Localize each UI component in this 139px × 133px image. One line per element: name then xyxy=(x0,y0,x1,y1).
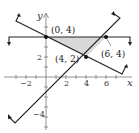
vertex-0-4 xyxy=(44,35,48,39)
x-tick-2: 2 xyxy=(64,79,69,88)
x-tick-6: 6 xyxy=(104,79,109,88)
vertex-label-4-2: (4, 2) xyxy=(55,54,79,64)
vertex-label-6-4: (6, 4) xyxy=(101,49,125,59)
vertex-6-4 xyxy=(104,35,108,39)
x-tick-neg2: −2 xyxy=(20,79,32,88)
vertex-label-0-4: (0, 4) xyxy=(51,25,75,35)
y-tick-neg4: −4 xyxy=(33,110,45,119)
y-tick-2: 2 xyxy=(37,53,42,62)
vertex-4-2 xyxy=(84,55,88,59)
leader-6-4 xyxy=(107,39,111,46)
x-axis-label: x xyxy=(127,77,133,88)
inequality-graph: (0, 4) (4, 2) (6, 4) y x −2 2 4 6 2 −4 xyxy=(0,0,139,133)
x-tick-4: 4 xyxy=(84,79,89,88)
y-axis-label: y xyxy=(36,10,43,21)
